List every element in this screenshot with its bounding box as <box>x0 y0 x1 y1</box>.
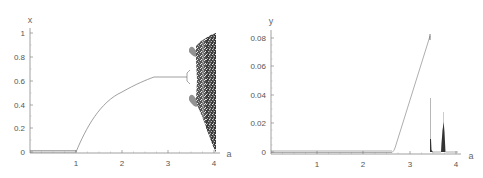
left-ytick-0: 0 <box>21 148 26 157</box>
left-ytick-0.2: 0.2 <box>14 124 26 133</box>
left-y-axis-label: x <box>28 15 33 25</box>
left-ytick-0.6: 0.6 <box>14 77 26 86</box>
left-xtick-1: 1 <box>74 159 79 168</box>
left-chart: 0 0.2 0.4 0.6 0.8 1 1 2 3 4 x a <box>14 15 232 168</box>
right-chart: 0 0.02 0.04 0.06 0.08 1 2 3 4 y a <box>250 16 473 169</box>
left-xtick-3: 3 <box>166 159 171 168</box>
left-series-zero <box>30 151 76 153</box>
left-ytick-0.8: 0.8 <box>14 53 26 62</box>
left-x-axis-label: a <box>226 149 231 159</box>
left-xtick-4: 4 <box>212 159 217 168</box>
right-xtick-1: 1 <box>315 160 320 169</box>
left-chaotic-band <box>189 33 216 152</box>
left-ytick-1: 1 <box>21 29 26 38</box>
right-ytick-0.08: 0.08 <box>250 34 266 43</box>
left-xtick-2: 2 <box>120 159 125 168</box>
left-series-fixed-point <box>76 77 187 152</box>
right-ytick-0.06: 0.06 <box>250 62 266 71</box>
right-y-axis-label: y <box>269 16 274 26</box>
left-period-doubling <box>187 70 190 84</box>
right-ytick-0.04: 0.04 <box>250 91 266 100</box>
right-xtick-4: 4 <box>454 160 459 169</box>
right-ytick-0.02: 0.02 <box>250 119 266 128</box>
right-series-y <box>271 34 458 153</box>
right-x-axis-label: a <box>468 151 473 161</box>
figure: 0 0.2 0.4 0.6 0.8 1 1 2 3 4 x a <box>0 0 483 178</box>
right-xtick-2: 2 <box>361 160 366 169</box>
left-ytick-0.4: 0.4 <box>14 101 26 110</box>
right-xtick-3: 3 <box>408 160 413 169</box>
right-ytick-0: 0 <box>262 148 267 157</box>
